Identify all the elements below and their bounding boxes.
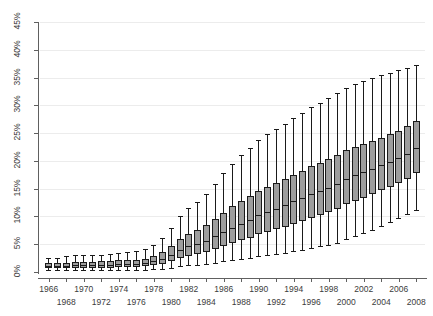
whisker-cap-upper <box>344 88 349 89</box>
y-axis-label-wrap: 35% <box>2 72 32 84</box>
y-axis-tick <box>34 161 39 162</box>
whisker-upper <box>258 140 259 191</box>
whisker-cap-upper <box>99 255 104 256</box>
whisker-cap-lower <box>309 248 314 249</box>
median-line <box>63 266 70 267</box>
box-plot-item <box>89 0 96 316</box>
whisker-cap-upper <box>239 155 244 156</box>
whisker-lower <box>276 229 277 254</box>
whisker-lower <box>188 256 189 265</box>
whisker-cap-upper <box>90 255 95 256</box>
whisker-cap-upper <box>143 249 148 250</box>
y-axis-line <box>38 22 39 274</box>
whisker-cap-lower <box>116 270 121 271</box>
median-line <box>325 188 332 189</box>
whisker-cap-upper <box>108 254 113 255</box>
y-axis-tick <box>34 22 39 23</box>
median-line <box>168 255 175 256</box>
whisker-upper <box>328 98 329 159</box>
box-iqr <box>290 175 297 224</box>
whisker-lower <box>267 232 268 255</box>
box-iqr <box>404 126 411 178</box>
whisker-lower <box>355 201 356 237</box>
whisker-cap-upper <box>151 245 156 246</box>
whisker-cap-lower <box>204 264 209 265</box>
whisker-cap-upper <box>388 73 393 74</box>
whisker-cap-lower <box>326 245 331 246</box>
whisker-upper <box>197 202 198 230</box>
whisker-cap-lower <box>344 239 349 240</box>
box-iqr <box>229 206 236 243</box>
median-line <box>317 191 324 192</box>
box-iqr <box>395 131 402 183</box>
box-iqr <box>325 159 332 212</box>
box-plot-item <box>54 0 61 316</box>
y-axis-label-wrap: 45% <box>2 16 32 28</box>
y-axis-label-wrap: 25% <box>2 127 32 139</box>
box-iqr <box>264 187 271 232</box>
box-plot-item <box>308 0 315 316</box>
whisker-upper <box>293 118 294 175</box>
whisker-upper <box>276 129 277 183</box>
median-line <box>395 158 402 159</box>
y-axis-tick <box>34 50 39 51</box>
whisker-upper <box>398 70 399 131</box>
y-axis-tick <box>34 216 39 217</box>
box-iqr <box>255 191 262 234</box>
y-axis-label: 15% <box>12 173 22 203</box>
whisker-upper <box>118 253 119 261</box>
whisker-lower <box>223 246 224 262</box>
whisker-cap-lower <box>178 266 183 267</box>
whisker-cap-lower <box>405 214 410 215</box>
whisker-cap-upper <box>125 252 130 253</box>
box-iqr <box>273 183 280 229</box>
whisker-cap-lower <box>318 246 323 247</box>
whisker-cap-lower <box>81 270 86 271</box>
whisker-cap-upper <box>265 134 270 135</box>
box-iqr <box>194 230 201 254</box>
whisker-upper <box>407 68 408 127</box>
whisker-upper <box>153 245 154 256</box>
whisker-cap-lower <box>388 222 393 223</box>
median-line <box>290 201 297 202</box>
box-iqr <box>352 147 359 201</box>
whisker-cap-upper <box>283 124 288 125</box>
y-axis-tick <box>34 244 39 245</box>
median-line <box>308 194 315 195</box>
whisker-upper <box>416 65 417 121</box>
whisker-cap-upper <box>169 228 174 229</box>
whisker-lower <box>285 227 286 253</box>
y-axis-label-wrap: 40% <box>2 44 32 56</box>
y-axis-label: 40% <box>12 34 22 64</box>
whisker-cap-lower <box>248 258 253 259</box>
whisker-cap-lower <box>274 254 279 255</box>
median-line <box>203 241 210 242</box>
whisker-upper <box>346 88 347 151</box>
whisker-lower <box>180 258 181 266</box>
whisker-cap-upper <box>335 93 340 94</box>
whisker-cap-lower <box>195 265 200 266</box>
whisker-upper <box>355 84 356 147</box>
whisker-cap-lower <box>143 270 148 271</box>
median-line <box>72 265 79 266</box>
box-iqr <box>387 134 394 187</box>
median-line <box>238 224 245 225</box>
box-iqr <box>343 150 350 204</box>
box-iqr <box>177 239 184 258</box>
whisker-lower <box>302 221 303 250</box>
whisker-cap-upper <box>274 129 279 130</box>
box-plot-item <box>352 0 359 316</box>
whisker-lower <box>232 243 233 260</box>
whisker-upper <box>390 73 391 135</box>
whisker-cap-upper <box>81 255 86 256</box>
whisker-cap-lower <box>335 243 340 244</box>
box-plot-item <box>387 0 394 316</box>
whisker-upper <box>171 228 172 246</box>
whisker-upper <box>302 113 303 171</box>
median-line <box>343 179 350 180</box>
median-line <box>264 212 271 213</box>
whisker-cap-upper <box>73 255 78 256</box>
box-plot-item <box>212 0 219 316</box>
median-line <box>282 205 289 206</box>
whisker-lower <box>241 240 242 259</box>
